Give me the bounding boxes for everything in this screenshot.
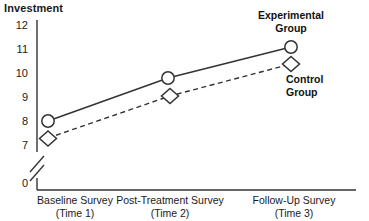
data-point-experimental-time3 — [285, 41, 297, 53]
x-tick-post-treatment-survey-label: Post-Treatment Survey — [116, 194, 224, 206]
series-annotation-control-line1: Control — [286, 73, 323, 85]
data-point-experimental-time1 — [42, 115, 54, 127]
data-point-experimental-time2 — [162, 72, 174, 84]
x-tick-follow-up-survey-sublabel: (Time 3) — [219, 207, 369, 220]
data-point-control-time1 — [40, 131, 57, 146]
data-point-control-time3 — [283, 57, 300, 72]
x-tick-follow-up-survey: Follow-Up Survey (Time 3) — [219, 194, 369, 220]
investment-line-chart: Investment 12 11 10 9 8 7 0 Experimental… — [0, 0, 369, 221]
series-annotation-experimental-line2: Group — [275, 22, 307, 34]
series-annotation-experimental-line1: Experimental — [258, 9, 324, 21]
series-annotation-experimental-group: Experimental Group — [232, 9, 350, 34]
data-point-control-time2 — [162, 89, 179, 104]
series-annotation-control-group: Control Group — [286, 73, 362, 98]
axis-break-slash-upper — [30, 156, 44, 172]
series-annotation-control-line2: Group — [286, 86, 318, 98]
x-tick-follow-up-survey-label: Follow-Up Survey — [253, 194, 336, 206]
